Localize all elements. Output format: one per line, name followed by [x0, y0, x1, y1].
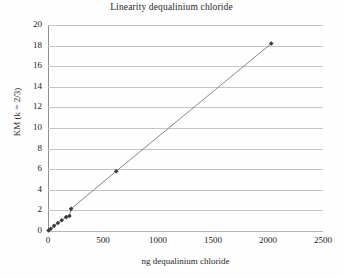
y-axis-tick-label: 4 [12, 185, 42, 194]
y-axis-tick-label: 12 [12, 102, 42, 111]
x-axis-tick-label: 0 [28, 236, 68, 245]
gridline [48, 231, 323, 232]
x-axis-tick-label: 500 [83, 236, 123, 245]
y-axis-tick-label: 18 [12, 41, 42, 50]
x-axis-tick-label: 1500 [193, 236, 233, 245]
y-axis-tick-label: 14 [12, 82, 42, 91]
y-axis-tick-label: 0 [12, 226, 42, 235]
trend-line [49, 44, 272, 231]
y-axis-tick-label: 2 [12, 205, 42, 214]
plot-area [48, 25, 323, 231]
x-axis-tick-label: 2000 [248, 236, 288, 245]
y-axis-tick-label: 20 [12, 20, 42, 29]
y-axis-tick-label: 6 [12, 164, 42, 173]
x-axis-title: ng dequalinium chloride [48, 256, 323, 266]
y-axis-tick-label: 8 [12, 144, 42, 153]
chart-figure: Linearity dequalinium chloride KM (k = 2… [0, 0, 343, 278]
y-axis-tick-label: 16 [12, 61, 42, 70]
y-axis-tick-label: 10 [12, 123, 42, 132]
x-axis-tick-label: 2500 [303, 236, 343, 245]
x-axis-tick-label: 1000 [138, 236, 178, 245]
data-series [48, 25, 323, 231]
chart-title: Linearity dequalinium chloride [0, 2, 343, 12]
